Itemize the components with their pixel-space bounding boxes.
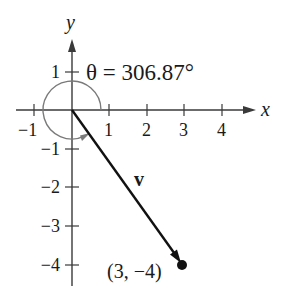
angle-label: θ = 306.87° xyxy=(86,60,194,85)
vector-v xyxy=(72,110,181,263)
x-tick-label: 3 xyxy=(179,120,188,140)
point-label: (3, −4) xyxy=(107,260,162,283)
y-axis-label: y xyxy=(64,11,75,34)
x-axis-label: x xyxy=(260,98,270,120)
y-tick-label: −3 xyxy=(41,216,60,236)
y-tick-label: 1 xyxy=(51,62,60,82)
x-axis xyxy=(16,104,256,116)
y-axis-arrow-icon xyxy=(68,39,76,52)
x-tick-label: −1 xyxy=(18,120,37,140)
x-tick-label: 2 xyxy=(142,120,151,140)
y-tick-label: −2 xyxy=(41,177,60,197)
terminal-point xyxy=(177,260,187,270)
y-axis xyxy=(65,39,79,286)
x-tick-label: 4 xyxy=(217,120,226,140)
y-tick-label: −4 xyxy=(41,255,60,275)
vector-diagram: y x −1 1 2 3 4 1 −1 −2 −3 −4 θ = 306.87°… xyxy=(0,0,287,306)
vector-label: v xyxy=(134,168,144,190)
x-axis-arrow-icon xyxy=(243,106,256,114)
y-tick-label: −1 xyxy=(41,139,60,159)
x-tick-label: 1 xyxy=(104,120,113,140)
